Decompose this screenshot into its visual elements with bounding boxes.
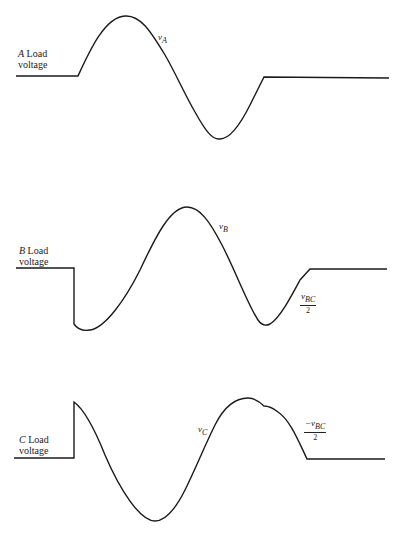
panel-a-label-line2: voltage (18, 59, 47, 70)
waveform-a (16, 16, 389, 139)
panel-c-label: C Load voltage (19, 434, 49, 456)
panel-a-label-line1: Load (27, 48, 48, 59)
signal-sub: A (162, 36, 167, 45)
waveform-c (14, 398, 385, 521)
panel-a-label: A Load voltage (18, 48, 47, 70)
signal-sub: B (223, 225, 228, 234)
numerator-sub: BC (315, 422, 325, 431)
waveform-b (16, 207, 387, 330)
panel-c-label-line2: voltage (19, 445, 48, 456)
numerator-sub: BC (305, 295, 315, 304)
fraction-denominator: 2 (300, 306, 316, 316)
fraction-numerator: −vBC (304, 418, 326, 433)
panel-b-label-line2: voltage (19, 256, 48, 267)
fraction-denominator: 2 (304, 433, 326, 443)
panel-b-letter: B (19, 245, 25, 256)
panel-a-letter: A (18, 48, 24, 59)
signal-label-vc: vC (198, 424, 207, 437)
signal-label-va: vA (158, 32, 167, 45)
panel-b-label-line1: Load (28, 245, 49, 256)
signal-label-vb: vB (219, 221, 228, 234)
panel-c-label-line1: Load (28, 434, 49, 445)
annotation-neg-vbc-over-2: −vBC 2 (304, 418, 326, 443)
panel-b-label: B Load voltage (19, 245, 48, 267)
annotation-vbc-over-2: vBC 2 (300, 291, 316, 316)
waveform-diagram (0, 0, 405, 538)
fraction-numerator: vBC (300, 291, 316, 306)
signal-sub: C (202, 428, 207, 437)
panel-c-letter: C (19, 434, 26, 445)
